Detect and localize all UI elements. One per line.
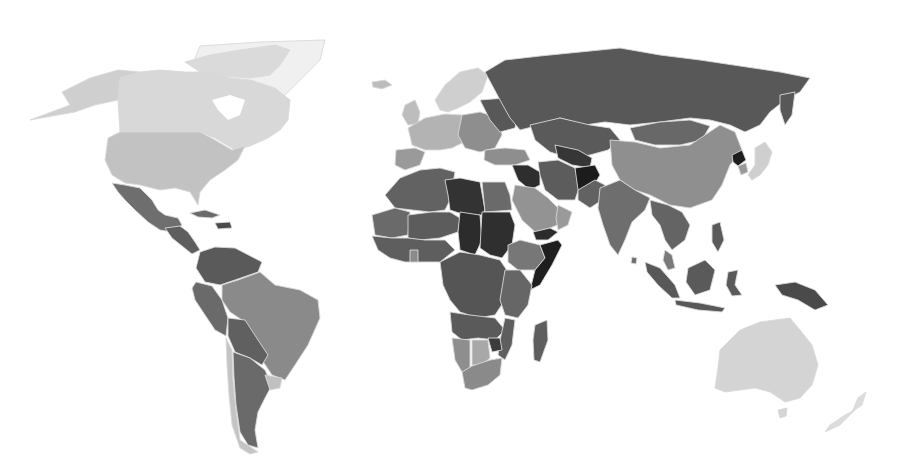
region-mauritania[interactable] bbox=[372, 208, 410, 238]
region-uk[interactable] bbox=[402, 100, 420, 125]
region-kamchatka[interactable] bbox=[780, 92, 795, 125]
region-tasmania[interactable] bbox=[778, 408, 787, 418]
region-sri-lanka[interactable] bbox=[631, 257, 637, 264]
region-philippines[interactable] bbox=[712, 222, 724, 252]
region-iberia[interactable] bbox=[395, 148, 425, 170]
region-iran[interactable] bbox=[538, 160, 580, 200]
region-malaysia[interactable] bbox=[663, 250, 675, 270]
region-scandinavia[interactable] bbox=[435, 68, 488, 112]
region-java[interactable] bbox=[675, 300, 725, 312]
region-egypt[interactable] bbox=[482, 182, 512, 212]
region-mexico[interactable] bbox=[112, 183, 182, 232]
region-russia[interactable] bbox=[485, 48, 810, 132]
region-oman[interactable] bbox=[556, 205, 572, 230]
region-mali-niger[interactable] bbox=[408, 212, 460, 240]
region-central-america[interactable] bbox=[165, 226, 200, 254]
region-japan[interactable] bbox=[748, 142, 772, 180]
region-namibia[interactable] bbox=[452, 338, 470, 372]
region-madagascar[interactable] bbox=[533, 320, 548, 362]
region-central-africa[interactable] bbox=[440, 252, 510, 318]
region-angola-zambia[interactable] bbox=[450, 312, 505, 340]
region-libya[interactable] bbox=[445, 178, 485, 215]
map-canvas bbox=[0, 0, 900, 475]
region-borneo[interactable] bbox=[686, 260, 715, 295]
region-new-zealand[interactable] bbox=[825, 392, 866, 432]
region-east-africa[interactable] bbox=[500, 270, 532, 318]
region-zimbabwe[interactable] bbox=[488, 338, 502, 352]
region-cuba[interactable] bbox=[190, 210, 220, 218]
region-morocco-algeria[interactable] bbox=[385, 168, 455, 212]
region-new-guinea[interactable] bbox=[775, 282, 828, 310]
region-sulawesi[interactable] bbox=[726, 270, 742, 296]
region-iceland[interactable] bbox=[372, 80, 392, 89]
region-hispaniola[interactable] bbox=[215, 222, 232, 229]
world-choropleth-map bbox=[0, 0, 900, 475]
region-chad[interactable] bbox=[458, 212, 482, 255]
region-turkey[interactable] bbox=[484, 148, 530, 165]
region-australia[interactable] bbox=[715, 318, 818, 402]
region-ghana[interactable] bbox=[410, 250, 418, 262]
